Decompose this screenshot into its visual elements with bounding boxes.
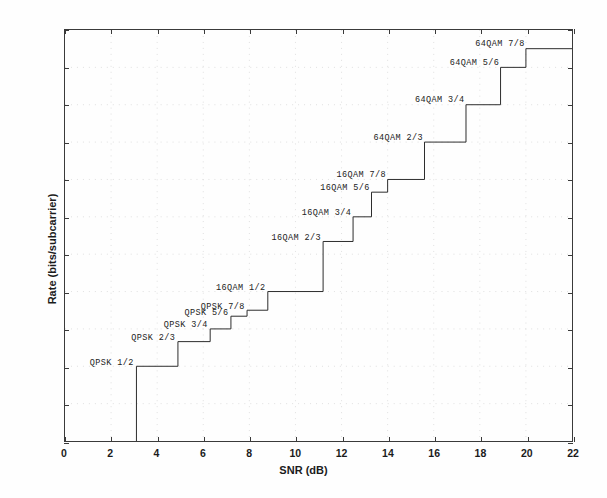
x-tick-mark	[574, 437, 575, 442]
x-tick-label: 16	[428, 447, 440, 459]
x-tick-label: 18	[475, 447, 487, 459]
x-tick-label: 0	[61, 447, 67, 459]
point-annotation: 64QAM 2/3	[373, 133, 425, 143]
point-annotation: QPSK 2/3	[131, 333, 177, 343]
point-annotation: QPSK 3/4	[164, 320, 210, 330]
point-annotation-layer: QPSK 1/2QPSK 2/3QPSK 3/4QPSK 5/6QPSK 7/8…	[65, 30, 572, 441]
point-annotation: 16QAM 7/8	[336, 170, 388, 180]
point-annotation: 64QAM 5/6	[450, 58, 502, 68]
x-tick-mark	[574, 29, 575, 34]
x-tick-label: 12	[336, 447, 348, 459]
figure-canvas: Rate (bits/subcarrier) SNR (dB) 00.511.5…	[0, 0, 607, 498]
x-tick-label: 10	[290, 447, 302, 459]
point-annotation: 16QAM 1/2	[216, 283, 268, 293]
y-tick-mark	[64, 443, 69, 444]
x-tick-label: 20	[521, 447, 533, 459]
x-tick-label: 4	[154, 447, 160, 459]
plot-area: QPSK 1/2QPSK 2/3QPSK 3/4QPSK 5/6QPSK 7/8…	[64, 29, 573, 442]
point-annotation: 64QAM 3/4	[415, 95, 467, 105]
point-annotation: 64QAM 7/8	[475, 39, 527, 49]
point-annotation: 16QAM 5/6	[320, 183, 372, 193]
point-annotation: 16QAM 2/3	[272, 233, 324, 243]
y-tick-mark	[568, 443, 573, 444]
x-tick-label: 14	[382, 447, 394, 459]
x-tick-label: 22	[567, 447, 579, 459]
point-annotation: QPSK 1/2	[90, 358, 136, 368]
x-tick-label: 2	[107, 447, 113, 459]
point-annotation: 16QAM 3/4	[302, 208, 354, 218]
x-tick-label: 8	[246, 447, 252, 459]
x-tick-label: 6	[200, 447, 206, 459]
point-annotation: QPSK 7/8	[201, 302, 247, 312]
